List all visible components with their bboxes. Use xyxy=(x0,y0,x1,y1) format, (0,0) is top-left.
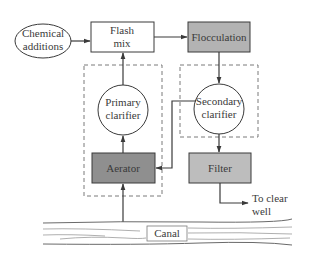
secondary-clarifier-label-1: Secondary xyxy=(196,95,243,107)
node-aerator: Aerator xyxy=(92,153,155,183)
clear-well-label-1: To clear xyxy=(252,192,288,204)
node-primary-clarifier: Primary clarifier xyxy=(98,85,148,135)
aerator-label: Aerator xyxy=(106,162,140,174)
filter-label: Filter xyxy=(208,162,232,174)
flash-mix-label-2: mix xyxy=(113,37,131,49)
flocculation-label: Flocculation xyxy=(192,31,247,43)
canal-label: Canal xyxy=(154,227,180,239)
node-secondary-clarifier: Secondary clarifier xyxy=(194,84,244,134)
chemical-additions-label-2: additions xyxy=(23,40,63,52)
node-flash-mix: Flash mix xyxy=(91,22,154,52)
node-canal: Canal xyxy=(43,219,292,245)
edge-filter-to-clearwell xyxy=(220,183,248,203)
primary-clarifier-label-2: clarifier xyxy=(106,109,141,121)
secondary-clarifier-label-2: clarifier xyxy=(202,108,237,120)
clear-well-text: To clear well xyxy=(252,192,288,217)
node-filter: Filter xyxy=(189,153,251,183)
node-flocculation: Flocculation xyxy=(188,22,250,52)
flash-mix-label-1: Flash xyxy=(110,24,134,36)
clear-well-label-2: well xyxy=(252,205,271,217)
process-flow-diagram: Chemical additions Flash mix Flocculatio… xyxy=(0,0,309,256)
chemical-additions-label-1: Chemical xyxy=(22,27,64,39)
node-chemical-additions: Chemical additions xyxy=(15,24,71,58)
primary-clarifier-label-1: Primary xyxy=(105,96,141,108)
